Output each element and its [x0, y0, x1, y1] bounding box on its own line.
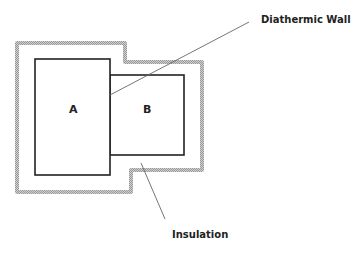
box-a [35, 59, 110, 175]
box-a-label: A [69, 103, 78, 116]
diagram-canvas [0, 0, 354, 253]
diathermic-wall-label: Diathermic Wall [261, 14, 351, 25]
box-b-label: B [143, 103, 151, 116]
insulation-label: Insulation [172, 229, 228, 240]
